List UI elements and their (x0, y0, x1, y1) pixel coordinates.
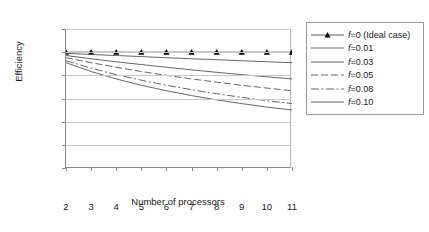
chart-legend: f=0 (Ideal case)f=0.01f=0.03f=0.05f=0.08… (306, 22, 424, 115)
gridline (66, 52, 290, 53)
x-tick-mark (141, 167, 142, 171)
y-tick-mark (62, 145, 66, 146)
x-tick-label: 10 (255, 201, 279, 212)
legend-key-icon (310, 96, 345, 108)
x-tick-label: 11 (280, 201, 304, 212)
x-tick-label: 9 (230, 201, 254, 212)
gridline (66, 122, 290, 123)
legend-item-0: f=0 (Ideal case) (310, 28, 419, 42)
series-line-1 (66, 53, 292, 62)
y-tick-mark (62, 52, 66, 53)
x-tick-label: 2 (54, 201, 78, 212)
y-tick-mark (62, 122, 66, 123)
x-tick-mark (292, 167, 293, 171)
x-tick-label: 5 (129, 201, 153, 212)
x-tick-mark (166, 167, 167, 171)
plot-area: 0.000.200.400.600.801.001.20234567891011 (65, 29, 291, 168)
y-tick-mark (62, 99, 66, 100)
x-tick-mark (267, 167, 268, 171)
gridline (66, 75, 290, 76)
series-line-5 (66, 63, 292, 110)
gridline (66, 145, 290, 146)
legend-label: f=0 (Ideal case) (348, 30, 410, 40)
legend-label: f=0.01 (348, 43, 373, 53)
efficiency-chart-figure: Efficiency Number of processors 0.000.20… (0, 0, 429, 232)
series-line-4 (66, 61, 292, 104)
x-tick-mark (116, 167, 117, 171)
x-tick-mark (242, 167, 243, 171)
x-tick-mark (66, 167, 67, 171)
gridline (66, 99, 290, 100)
y-axis-title: Efficiency (13, 12, 24, 112)
legend-item-4: f=0.08 (310, 82, 419, 96)
legend-label: f=0.03 (348, 57, 373, 67)
legend-label: f=0.10 (348, 97, 373, 107)
legend-key-icon (310, 56, 345, 68)
gridline (66, 29, 290, 30)
legend-item-1: f=0.01 (310, 42, 419, 56)
x-tick-label: 3 (79, 201, 103, 212)
x-tick-label: 4 (104, 201, 128, 212)
legend-label: f=0.05 (348, 70, 373, 80)
legend-key-icon (310, 42, 345, 54)
legend-key-icon (310, 69, 345, 81)
legend-item-3: f=0.05 (310, 69, 419, 83)
legend-label: f=0.08 (348, 84, 373, 94)
x-tick-label: 6 (154, 201, 178, 212)
y-tick-mark (62, 75, 66, 76)
legend-item-2: f=0.03 (310, 55, 419, 69)
legend-item-5: f=0.10 (310, 96, 419, 110)
x-tick-mark (192, 167, 193, 171)
x-tick-label: 7 (180, 201, 204, 212)
legend-key-icon (310, 83, 345, 95)
legend-key-icon (310, 29, 345, 41)
x-tick-label: 8 (205, 201, 229, 212)
x-tick-mark (217, 167, 218, 171)
x-tick-mark (91, 167, 92, 171)
y-tick-mark (62, 29, 66, 30)
